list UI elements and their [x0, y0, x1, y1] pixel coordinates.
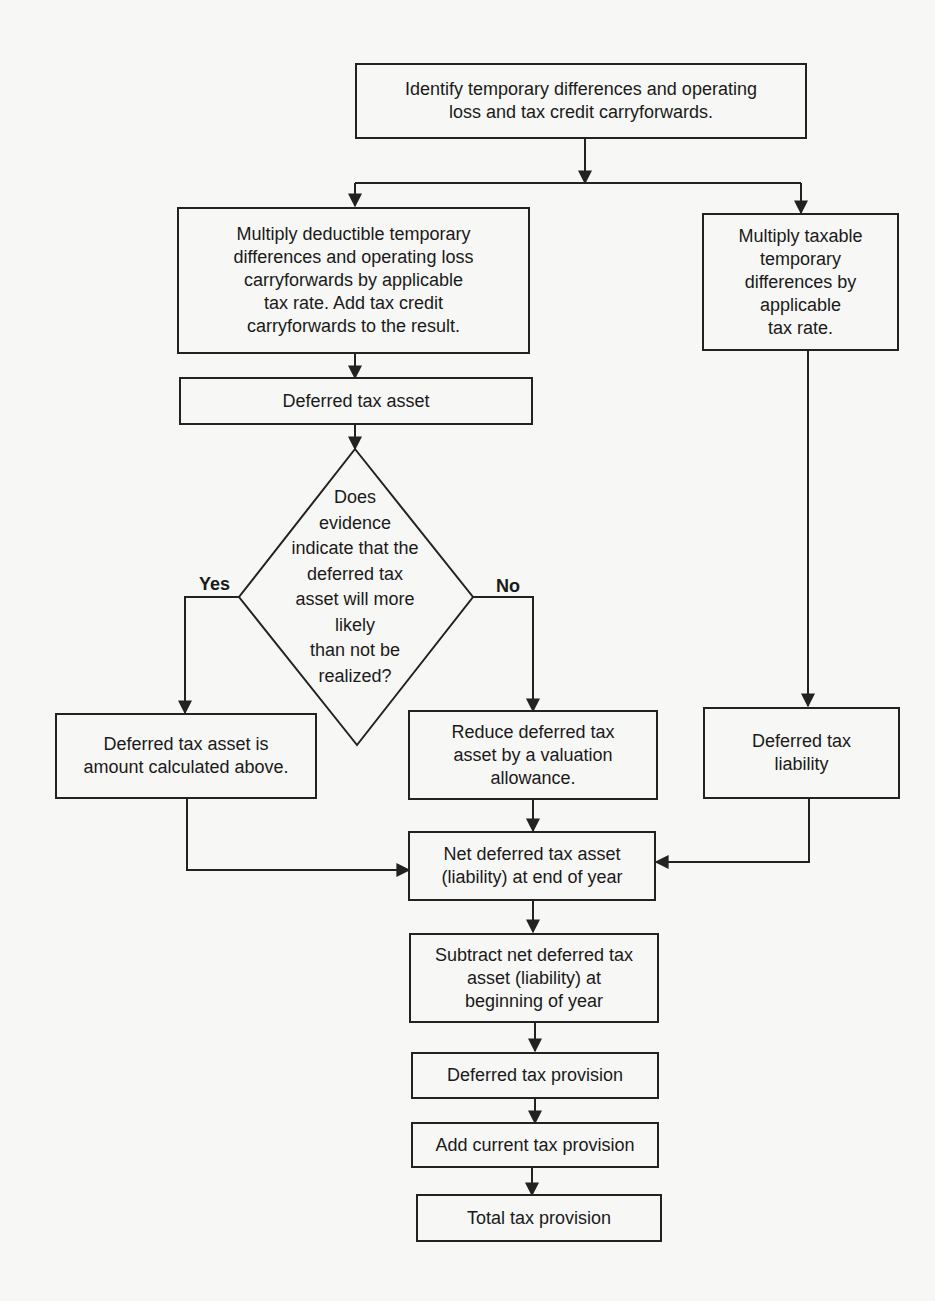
node-deferred-tax-liability-text: Deferred tax liability — [752, 730, 851, 776]
node-multiply-deductible: Multiply deductible temporary difference… — [177, 207, 530, 354]
node-multiply-deductible-text: Multiply deductible temporary difference… — [234, 223, 474, 338]
arrow-yes — [185, 597, 239, 713]
branch-label-no: No — [496, 576, 520, 597]
node-add-current-text: Add current tax provision — [435, 1134, 634, 1157]
node-net-end-of-year: Net deferred tax asset (liability) at en… — [408, 831, 656, 901]
arrow-no — [473, 597, 533, 711]
node-total-tax-provision-text: Total tax provision — [467, 1207, 611, 1230]
node-identify: Identify temporary differences and opera… — [355, 63, 807, 139]
node-net-end-of-year-text: Net deferred tax asset (liability) at en… — [441, 843, 622, 889]
node-multiply-taxable-text: Multiply taxable temporary differences b… — [738, 225, 862, 340]
arrow-liability-to-net — [656, 798, 809, 862]
flowchart-connectors — [0, 0, 935, 1301]
node-asset-calculated-text: Deferred tax asset is amount calculated … — [83, 733, 288, 779]
node-identify-text: Identify temporary differences and opera… — [405, 78, 757, 124]
node-add-current: Add current tax provision — [411, 1122, 659, 1168]
branch-label-yes: Yes — [199, 574, 230, 595]
node-deferred-tax-provision: Deferred tax provision — [411, 1052, 659, 1099]
node-reduce-valuation: Reduce deferred tax asset by a valuation… — [408, 710, 658, 800]
node-subtract-beginning: Subtract net deferred tax asset (liabili… — [409, 933, 659, 1023]
node-deferred-tax-asset: Deferred tax asset — [179, 377, 533, 425]
node-deferred-tax-liability: Deferred tax liability — [703, 707, 900, 799]
node-total-tax-provision: Total tax provision — [416, 1194, 662, 1242]
node-subtract-beginning-text: Subtract net deferred tax asset (liabili… — [435, 944, 633, 1013]
node-asset-calculated: Deferred tax asset is amount calculated … — [55, 713, 317, 799]
arrow-asset-calculated-to-net — [187, 798, 409, 870]
node-reduce-valuation-text: Reduce deferred tax asset by a valuation… — [451, 721, 614, 790]
node-deferred-tax-asset-text: Deferred tax asset — [282, 390, 429, 413]
node-deferred-tax-provision-text: Deferred tax provision — [447, 1064, 623, 1087]
node-multiply-taxable: Multiply taxable temporary differences b… — [702, 213, 899, 351]
decision-text: Does evidence indicate that the deferred… — [275, 485, 435, 689]
